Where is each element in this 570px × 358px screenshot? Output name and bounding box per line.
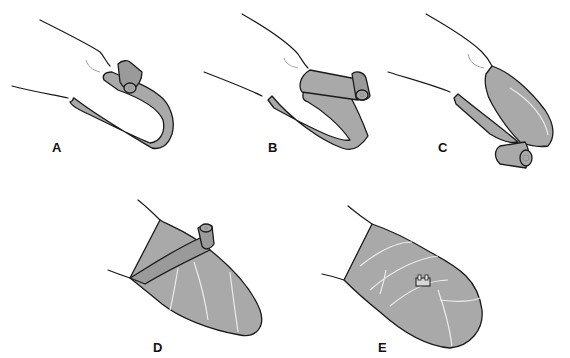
finger-bandage-illustration-a xyxy=(0,0,190,179)
finger-bandage-illustration-d xyxy=(90,170,280,358)
panel-e: E xyxy=(320,170,570,358)
finger-bandage-illustration-b xyxy=(190,0,380,179)
finger-bandage-illustration-e xyxy=(320,170,570,358)
panel-d: D xyxy=(90,170,280,358)
panel-c: C xyxy=(380,0,570,179)
panel-a: A xyxy=(0,0,190,179)
panel-label-d: D xyxy=(153,340,162,355)
panel-label-b: B xyxy=(268,140,277,155)
finger-bandage-illustration-c xyxy=(380,0,570,179)
panel-b: B xyxy=(190,0,380,179)
panel-label-a: A xyxy=(52,140,61,155)
panel-label-c: C xyxy=(438,140,447,155)
panel-label-e: E xyxy=(378,340,387,355)
